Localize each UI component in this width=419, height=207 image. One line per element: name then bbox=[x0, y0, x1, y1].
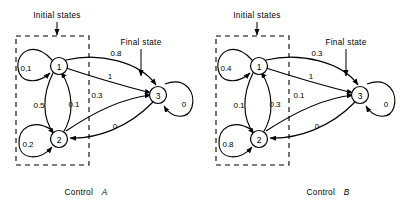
edge-label-2-2-b: 0.8 bbox=[222, 140, 234, 149]
node-3-label-a: 3 bbox=[156, 91, 161, 101]
caption-prefix-a: Control bbox=[65, 188, 94, 197]
edge-1-2-a bbox=[45, 73, 54, 134]
self-loop-3-b bbox=[366, 82, 395, 116]
edge-label-2-1-a: 0.1 bbox=[68, 100, 80, 109]
edge-label-1-3-top-a: 0.8 bbox=[110, 49, 122, 58]
node-3-label-b: 3 bbox=[358, 91, 363, 101]
caption-control-a: Control A bbox=[65, 188, 108, 197]
edge-label-1-2-b: 0.1 bbox=[233, 101, 245, 110]
figure-canvas: Initial states Final state 0,1 0.5 0.1 0… bbox=[0, 0, 419, 207]
caption-control-b: Control B bbox=[307, 188, 350, 197]
edge-label-1-3-mid-b: 1 bbox=[309, 72, 314, 81]
node-1-a[interactable]: 1 bbox=[51, 58, 68, 75]
edge-label-1-1-a: 0,1 bbox=[20, 64, 32, 73]
initial-states-label-b: Initial states bbox=[233, 11, 280, 20]
edge-label-1-3-mid-a: 1 bbox=[108, 72, 113, 81]
edge-label-3-3-b: 0 bbox=[384, 100, 389, 109]
edge-label-2-2-a: 0.2 bbox=[22, 140, 34, 149]
edge-label-2-1-b: 0.3 bbox=[269, 100, 281, 109]
node-1-label-a: 1 bbox=[57, 62, 62, 72]
node-2-b[interactable]: 2 bbox=[251, 131, 268, 148]
node-1-b[interactable]: 1 bbox=[251, 58, 268, 75]
initial-states-label-a: Initial states bbox=[33, 11, 80, 20]
edge-label-1-2-a: 0.5 bbox=[33, 101, 45, 110]
final-state-label-a: Final state bbox=[120, 38, 161, 47]
node-1-label-b: 1 bbox=[257, 62, 262, 72]
edge-label-3-2-a: 0 bbox=[113, 122, 118, 131]
node-3-a[interactable]: 3 bbox=[150, 87, 167, 104]
caption-name-a: A bbox=[101, 188, 108, 197]
edge-1-2-b bbox=[245, 73, 254, 134]
diagram-control-a: Initial states Final state 0,1 0.5 0.1 0… bbox=[0, 0, 210, 207]
caption-prefix-b: Control bbox=[307, 188, 336, 197]
node-2-a[interactable]: 2 bbox=[51, 131, 68, 148]
edge-label-1-1-b: 0.4 bbox=[220, 64, 232, 73]
edge-label-3-3-a: 0 bbox=[182, 100, 187, 109]
diagram-control-b: Initial states Final state 0.4 0.1 0.3 0… bbox=[209, 0, 419, 207]
self-loop-3-a bbox=[164, 82, 193, 116]
node-2-label-b: 2 bbox=[257, 135, 262, 145]
node-2-label-a: 2 bbox=[57, 135, 62, 145]
edge-label-2-3-b: 0.1 bbox=[293, 91, 305, 100]
edge-label-1-3-top-b: 0.3 bbox=[311, 49, 323, 58]
node-3-b[interactable]: 3 bbox=[352, 87, 369, 104]
edge-label-3-2-b: 0 bbox=[315, 122, 320, 131]
edge-label-2-3-a: 0.3 bbox=[91, 91, 103, 100]
caption-name-b: B bbox=[344, 188, 350, 197]
final-state-label-b: Final state bbox=[325, 38, 366, 47]
